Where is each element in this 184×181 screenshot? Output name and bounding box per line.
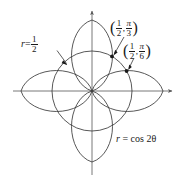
pi6-r-fraction: 12: [129, 42, 136, 61]
polar-graph-figure: r=12 (12,π3) (12,π6) r = cos 2θ: [0, 0, 184, 181]
pi6-open-paren: (: [123, 44, 128, 58]
circle-label-fraction: 12: [31, 35, 38, 54]
pi6-theta-fraction: π6: [139, 42, 146, 61]
pi6-theta-denominator: 6: [139, 52, 146, 61]
pi3-close-paren: ): [133, 21, 138, 35]
pi3-theta-denominator: 3: [126, 29, 133, 38]
circle-equation-label: r=12: [21, 35, 38, 54]
pi6-r-denominator: 2: [129, 52, 136, 61]
intersection-point-pi-over-3: [110, 55, 114, 59]
point-label-pi-over-3: (12,π3): [110, 19, 138, 38]
pi3-open-paren: (: [110, 21, 115, 35]
leader-arrow-point-pi6: [128, 64, 132, 70]
intersection-point-pi-over-6: [125, 69, 129, 73]
polar-plot-canvas: [0, 0, 184, 181]
rose-label-equals: =: [122, 133, 128, 144]
leader-arrow-point-pi3: [113, 50, 117, 56]
circle-label-denominator: 2: [31, 45, 38, 54]
pi6-close-paren: ): [146, 44, 151, 58]
pi3-r-denominator: 2: [116, 29, 123, 38]
rose-label-variable: r: [116, 133, 120, 144]
rose-label-expression: cos 2θ: [131, 133, 157, 144]
rose-equation-label: r = cos 2θ: [116, 134, 156, 144]
leader-line-circle-label: [57, 51, 67, 64]
pi3-theta-fraction: π3: [126, 19, 133, 38]
point-label-pi-over-6: (12,π6): [123, 42, 151, 61]
circle-label-equals: =: [25, 38, 31, 49]
pi3-r-fraction: 12: [116, 19, 123, 38]
